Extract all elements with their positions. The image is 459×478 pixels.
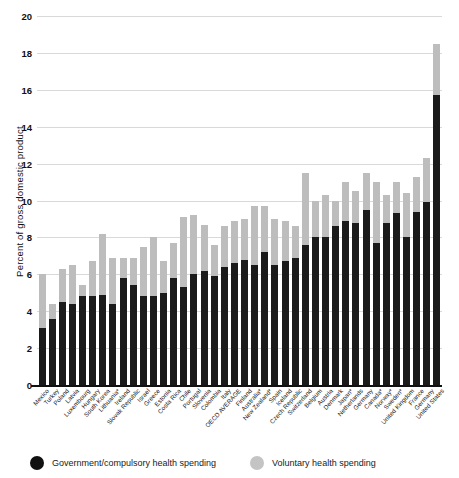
bar-segment-voluntary: [261, 206, 268, 252]
bar-column[interactable]: [433, 44, 440, 385]
bar-segment-government: [413, 212, 420, 385]
bar-segment-government: [312, 237, 319, 385]
bar-segment-government: [130, 285, 137, 385]
bar-column[interactable]: [352, 191, 359, 385]
bar-segment-government: [241, 260, 248, 385]
bar-segment-government: [433, 95, 440, 385]
legend-swatch-circle-icon: [250, 456, 264, 470]
bar-column[interactable]: [383, 195, 390, 385]
bar-column[interactable]: [170, 243, 177, 385]
bar-segment-voluntary: [332, 201, 339, 227]
bar-column[interactable]: [393, 182, 400, 385]
bar-column[interactable]: [403, 193, 410, 385]
bar-column[interactable]: [109, 258, 116, 385]
bar-segment-government: [150, 296, 157, 385]
bar-column[interactable]: [49, 304, 56, 385]
bar-column[interactable]: [342, 182, 349, 385]
bar-segment-voluntary: [69, 265, 76, 304]
bar-column[interactable]: [292, 226, 299, 385]
bar-segment-voluntary: [352, 191, 359, 222]
bar-column[interactable]: [221, 226, 228, 385]
bar-segment-government: [120, 278, 127, 385]
bar-segment-voluntary: [160, 261, 167, 292]
bar-segment-government: [373, 243, 380, 385]
bar-segment-government: [59, 302, 66, 385]
bar-column[interactable]: [312, 201, 319, 385]
bar-column[interactable]: [211, 245, 218, 385]
bar-column[interactable]: [241, 219, 248, 385]
bar-segment-voluntary: [403, 193, 410, 237]
bar-segment-voluntary: [312, 201, 319, 238]
bar-segment-government: [190, 274, 197, 385]
bar-segment-voluntary: [393, 182, 400, 213]
legend-item-government[interactable]: Government/compulsory health spending: [30, 456, 216, 470]
bar-column[interactable]: [423, 158, 430, 385]
bar-segment-voluntary: [180, 217, 187, 287]
bar-column[interactable]: [332, 201, 339, 385]
bar-segment-voluntary: [251, 206, 258, 265]
bar-column[interactable]: [271, 219, 278, 385]
plot-area: 02468101214161820: [37, 16, 442, 385]
bar-column[interactable]: [251, 206, 258, 385]
bar-column[interactable]: [201, 225, 208, 386]
bar-segment-government: [393, 213, 400, 385]
bar-segment-government: [49, 319, 56, 385]
bar-column[interactable]: [99, 234, 106, 385]
bar-segment-voluntary: [211, 245, 218, 276]
bar-column[interactable]: [130, 258, 137, 385]
bar-segment-voluntary: [322, 195, 329, 237]
bar-segment-government: [261, 252, 268, 385]
bar-segment-voluntary: [120, 258, 127, 278]
bar-segment-voluntary: [221, 226, 228, 267]
bar-segment-government: [322, 237, 329, 385]
bar-segment-voluntary: [109, 258, 116, 304]
y-axis-tick-label: 18: [21, 47, 32, 58]
bar-segment-government: [231, 263, 238, 385]
bar-segment-voluntary: [140, 247, 147, 297]
bar-segment-voluntary: [99, 234, 106, 295]
bar-column[interactable]: [413, 177, 420, 385]
bar-segment-government: [170, 278, 177, 385]
bar-column[interactable]: [79, 285, 86, 385]
bar-segment-government: [383, 223, 390, 385]
bar-segment-government: [352, 223, 359, 385]
bar-column[interactable]: [120, 258, 127, 385]
y-axis-tick-label: 10: [21, 195, 32, 206]
bar-column[interactable]: [39, 274, 46, 385]
y-axis-tick-label: 4: [27, 306, 32, 317]
bar-column[interactable]: [69, 265, 76, 385]
bar-column[interactable]: [363, 173, 370, 385]
bar-segment-government: [211, 276, 218, 385]
bar-segment-voluntary: [282, 221, 289, 262]
bar-segment-government: [39, 328, 46, 385]
bar-column[interactable]: [180, 217, 187, 385]
bar-column[interactable]: [140, 247, 147, 385]
bar-segment-government: [201, 271, 208, 385]
bar-segment-government: [403, 237, 410, 385]
bar-column[interactable]: [150, 237, 157, 385]
bar-segment-voluntary: [271, 219, 278, 265]
y-axis-tick-label: 2: [27, 343, 32, 354]
legend-item-voluntary[interactable]: Voluntary health spending: [250, 456, 376, 470]
bar-column[interactable]: [231, 221, 238, 385]
bar-segment-voluntary: [433, 44, 440, 96]
bar-segment-government: [160, 293, 167, 385]
bar-series-group: [37, 16, 442, 385]
bar-column[interactable]: [373, 182, 380, 385]
bar-column[interactable]: [160, 261, 167, 385]
bar-column[interactable]: [282, 221, 289, 385]
health-spending-chart: Percent of gross domestic product 024681…: [0, 0, 459, 478]
bar-segment-voluntary: [49, 304, 56, 319]
bar-column[interactable]: [261, 206, 268, 385]
bar-column[interactable]: [322, 195, 329, 385]
bar-segment-voluntary: [150, 237, 157, 296]
bar-column[interactable]: [302, 173, 309, 385]
bar-segment-government: [221, 267, 228, 385]
bar-segment-voluntary: [292, 226, 299, 257]
bar-column[interactable]: [190, 215, 197, 385]
bar-column[interactable]: [89, 261, 96, 385]
bar-segment-government: [99, 295, 106, 385]
bar-column[interactable]: [59, 269, 66, 385]
legend-label-voluntary: Voluntary health spending: [272, 458, 376, 468]
bar-segment-voluntary: [59, 269, 66, 302]
